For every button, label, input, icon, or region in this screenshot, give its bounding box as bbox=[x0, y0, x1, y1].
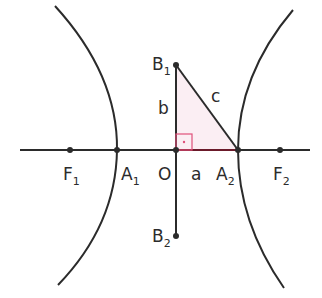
right-angle-dot bbox=[183, 141, 185, 143]
label-a: a bbox=[191, 164, 201, 184]
label-A2: A2 bbox=[216, 164, 235, 188]
point-B2 bbox=[173, 233, 179, 239]
label-B1: B1 bbox=[152, 54, 171, 78]
label-A1: A1 bbox=[121, 164, 140, 188]
label-B2: B2 bbox=[152, 226, 171, 250]
label-O: O bbox=[158, 164, 171, 184]
label-F2: F2 bbox=[273, 164, 290, 188]
hyperbola-diagram: F1 A1 O a A2 F2 B1 B2 b c bbox=[0, 0, 322, 298]
point-F1 bbox=[67, 147, 73, 153]
point-B1 bbox=[173, 62, 179, 68]
label-c: c bbox=[211, 86, 220, 106]
point-A1 bbox=[114, 147, 120, 153]
hyperbola-left-branch bbox=[55, 6, 117, 285]
point-F2 bbox=[277, 147, 283, 153]
label-b: b bbox=[158, 98, 169, 118]
point-O bbox=[173, 147, 179, 153]
label-F1: F1 bbox=[63, 164, 80, 188]
point-A2 bbox=[235, 147, 241, 153]
